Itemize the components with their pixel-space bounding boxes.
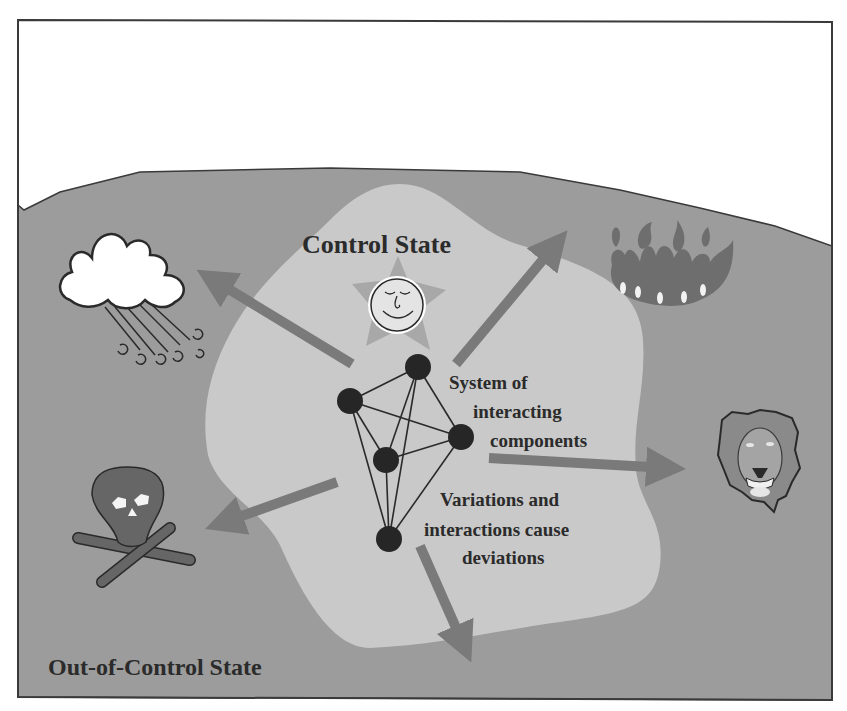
component-node	[376, 526, 402, 552]
component-node	[373, 447, 399, 473]
system-label-line3: components	[490, 430, 587, 451]
component-node	[405, 354, 431, 380]
component-node	[448, 424, 474, 450]
deviation-label-line3: deviations	[462, 547, 544, 568]
control-state-title: Control State	[302, 230, 451, 259]
deviation-label-line1: Variations and	[440, 489, 560, 510]
control-state-diagram: Control State System of interacting comp…	[0, 0, 847, 711]
deviation-label-line2: interactions cause	[424, 519, 569, 540]
system-label-line2: interacting	[473, 401, 562, 422]
out-of-control-title: Out-of-Control State	[48, 654, 262, 680]
system-label-line1: System of	[449, 372, 528, 393]
component-node	[337, 388, 363, 414]
